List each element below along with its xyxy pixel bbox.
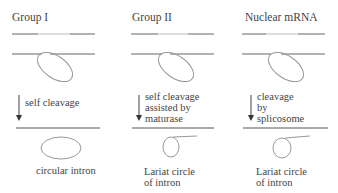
group-ii-product-label: Lariat circle of intron bbox=[144, 166, 195, 188]
nuclear-mrna-title: Nuclear mRNA bbox=[245, 11, 318, 23]
nuclear-mrna-product-label: Lariat circle of intron bbox=[256, 166, 307, 188]
group-ii-step-label: self cleavage assisted by maturase bbox=[145, 91, 200, 124]
group-ii-title: Group II bbox=[132, 11, 172, 23]
group-i-product-label: circular intron bbox=[36, 165, 96, 176]
nuclear-mrna-step-label: cleavage by splicosome bbox=[257, 91, 304, 124]
group-i-title: Group I bbox=[12, 11, 48, 23]
group-i-step-label: self cleavage bbox=[25, 97, 80, 108]
